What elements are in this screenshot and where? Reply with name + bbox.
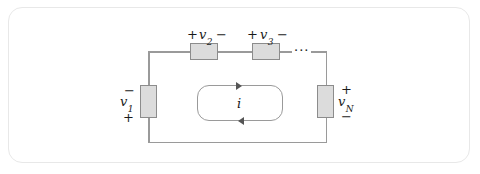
wire-left-upper [148, 51, 150, 86]
label-v3-subscript: 3 [268, 37, 274, 47]
current-arrow-top-icon [236, 82, 242, 90]
current-arrow-bottom-icon [238, 117, 244, 125]
wire-bottom [148, 142, 327, 144]
polarity-vN-bottom: − [341, 110, 352, 123]
label-v3-text: v [260, 27, 267, 42]
polarity-v2-left: + [187, 28, 198, 41]
wire-right-upper [326, 51, 328, 86]
element-v1-box [140, 85, 157, 118]
label-v1-text: v [120, 94, 127, 109]
label-vN-text: v [338, 94, 345, 109]
element-v3-box [252, 43, 280, 60]
wire-top-middle [217, 51, 253, 53]
circuit-diagram: − v1 + + v2 − + v3 − ··· + vN − i [0, 0, 480, 174]
label-v2: v2 [199, 28, 212, 45]
element-vN-box [317, 85, 334, 118]
label-v2-text: v [199, 27, 206, 42]
ellipsis-icon: ··· [292, 44, 311, 57]
polarity-v3-left: + [247, 28, 258, 41]
polarity-v3-right: − [277, 28, 288, 41]
label-current: i [237, 97, 241, 110]
wire-left-lower [148, 118, 150, 143]
wire-right-lower [326, 118, 328, 143]
polarity-v2-right: − [216, 28, 227, 41]
label-v3: v3 [260, 28, 273, 45]
polarity-v1-bottom: + [123, 111, 134, 124]
element-v2-box [190, 43, 218, 60]
label-v2-subscript: 2 [207, 37, 213, 47]
wire-top-left [148, 51, 191, 53]
